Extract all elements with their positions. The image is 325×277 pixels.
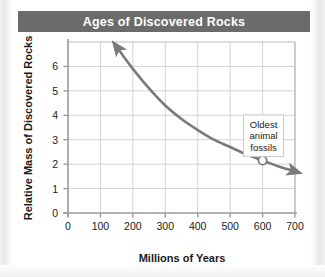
annotation-callout-line: fossils xyxy=(250,142,277,153)
annotation-group: Oldestanimalfossils xyxy=(244,115,284,165)
x-tick-label: 300 xyxy=(157,220,175,232)
y-tick-label: 1 xyxy=(52,183,58,195)
x-tick-label: 100 xyxy=(92,220,110,232)
annotation-marker xyxy=(258,156,266,164)
y-tick-label: 0 xyxy=(52,207,58,219)
x-axis-title: Millions of Years xyxy=(139,252,226,264)
x-tick-label: 500 xyxy=(221,220,239,232)
x-tick-label: 200 xyxy=(124,220,142,232)
x-tick-label: 400 xyxy=(189,220,207,232)
y-tick-label: 5 xyxy=(52,85,58,97)
annotation-callout-line: Oldest xyxy=(250,119,278,130)
y-axis-title: Relative Mass of Discovered Rocks xyxy=(22,36,34,221)
y-tick-label: 3 xyxy=(52,134,58,146)
annotation-callout-line: animal xyxy=(250,130,278,141)
x-tick-label: 600 xyxy=(254,220,272,232)
figure-root: Ages of Discovered Rocks 010020030040050… xyxy=(0,0,325,277)
y-tick-label: 4 xyxy=(52,109,58,121)
x-tick-labels: 0100200300400500600700 xyxy=(65,220,304,232)
x-tick-label: 700 xyxy=(286,220,304,232)
y-tick-label: 2 xyxy=(52,158,58,170)
x-tick-label: 0 xyxy=(65,220,71,232)
chart-plot: 0100200300400500600700 0123456 Oldestani… xyxy=(0,0,325,277)
y-tick-label: 6 xyxy=(52,60,58,72)
y-tick-labels: 0123456 xyxy=(52,60,58,219)
